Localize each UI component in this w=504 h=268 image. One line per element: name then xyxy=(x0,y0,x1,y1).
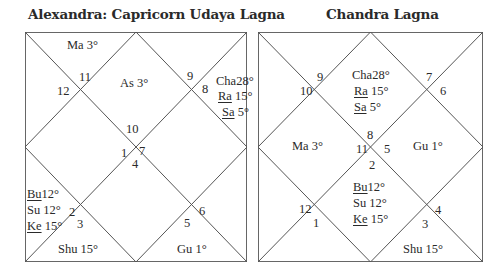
planet-jupiter: Gu 1° xyxy=(413,139,443,153)
left-chart-title: Alexandra: Capricorn Udaya Lagna xyxy=(28,6,285,22)
planet-saturn: Sa 5° xyxy=(222,105,249,119)
planet-moon: Cha28° xyxy=(352,68,390,82)
house-number: 6 xyxy=(440,84,446,98)
right-chart-title: Chandra Lagna xyxy=(326,6,439,22)
house-number: 8 xyxy=(202,82,208,96)
planet-rahu: Ra 15° xyxy=(354,84,389,98)
planet-venus: Shu 15° xyxy=(403,242,443,256)
right-chart-chandra-lagna: 8 9 10 11 12 1 2 3 4 5 6 7 Cha28° Ra 15°… xyxy=(258,32,483,262)
house-number: 4 xyxy=(132,157,138,171)
planet-rahu: Ra 15° xyxy=(218,89,253,103)
house-number: 5 xyxy=(384,142,390,156)
house-number: 12 xyxy=(299,202,312,216)
planet-saturn: Sa 5° xyxy=(354,100,381,114)
planet-mars: Ma 3° xyxy=(67,38,98,52)
house-number: 9 xyxy=(317,70,323,84)
house-number: 3 xyxy=(422,217,428,231)
planet-mars: Ma 3° xyxy=(292,139,323,153)
house-number: 10 xyxy=(126,122,139,136)
house-number: 1 xyxy=(121,146,127,160)
house-number: 5 xyxy=(184,216,190,230)
planet-ketu: Ke 15° xyxy=(353,212,388,226)
planet-jupiter: Gu 1° xyxy=(177,242,207,256)
left-chart-udaya-lagna: 10 11 12 1 2 3 4 5 6 7 8 9 Ma 3° As 3° C… xyxy=(25,32,247,262)
house-number: 2 xyxy=(369,158,375,172)
planet-venus: Shu 15° xyxy=(58,242,98,256)
house-number: 11 xyxy=(356,142,368,156)
planet-ascendant: As 3° xyxy=(120,76,148,90)
planet-moon: Cha28° xyxy=(216,74,254,88)
house-number: 8 xyxy=(367,128,373,142)
planet-mercury: Bu12° xyxy=(27,187,59,201)
house-number: 1 xyxy=(313,216,319,230)
house-number: 10 xyxy=(300,84,313,98)
house-number: 6 xyxy=(199,204,205,218)
house-number: 9 xyxy=(187,69,193,83)
house-number: 4 xyxy=(435,203,441,217)
planet-sun: Su 12° xyxy=(353,196,387,210)
house-number: 7 xyxy=(139,144,145,158)
planet-mercury: Bu12° xyxy=(353,180,385,194)
planet-ketu: Ke 15° xyxy=(27,219,62,233)
planet-sun: Su 12° xyxy=(27,203,61,217)
house-number: 12 xyxy=(57,84,70,98)
house-number: 2 xyxy=(69,205,75,219)
house-number: 11 xyxy=(79,70,91,84)
house-number: 3 xyxy=(77,217,83,231)
house-number: 7 xyxy=(426,70,432,84)
